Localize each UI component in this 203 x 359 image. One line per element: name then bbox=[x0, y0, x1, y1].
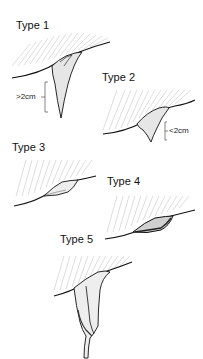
panel-type-1: Type 1 >2cm bbox=[0, 0, 110, 130]
measurement-label: >2cm bbox=[16, 93, 36, 101]
panel-type-3: Type 3 bbox=[0, 140, 100, 220]
panel-type-2: Type 2 <2cm bbox=[95, 60, 203, 170]
measurement-label: <2cm bbox=[169, 127, 189, 135]
panel-type-5: Type 5 bbox=[40, 230, 170, 359]
type-3-illustration bbox=[0, 140, 100, 220]
type-2-illustration bbox=[95, 60, 203, 170]
type-1-illustration bbox=[0, 0, 110, 130]
type-5-illustration bbox=[40, 230, 170, 359]
